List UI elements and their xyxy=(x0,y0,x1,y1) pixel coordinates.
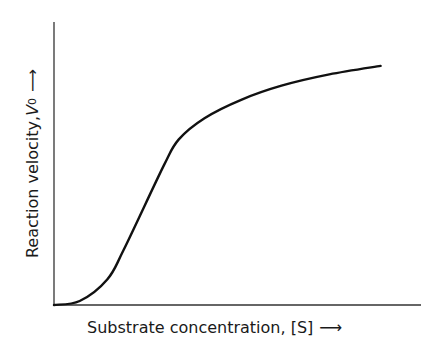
y-axis-label-container: Reaction velocity, V0 ⟶ xyxy=(20,22,46,307)
y-axis-variable: V xyxy=(24,105,43,116)
chart-plot-area xyxy=(0,0,442,353)
y-axis-label: Reaction velocity, V0 ⟶ xyxy=(24,71,43,258)
x-axis-label-text: Substrate concentration, [S] xyxy=(87,318,313,337)
y-axis-label-text: Reaction velocity, xyxy=(24,116,43,258)
y-axis-variable-subscript: 0 xyxy=(27,98,40,105)
data-series-curve xyxy=(54,66,381,305)
x-axis-arrow-icon: ⟶ xyxy=(319,318,340,337)
y-axis-arrow-icon: ⟶ xyxy=(24,71,43,92)
x-axis-label: Substrate concentration, [S] ⟶ xyxy=(87,318,340,337)
